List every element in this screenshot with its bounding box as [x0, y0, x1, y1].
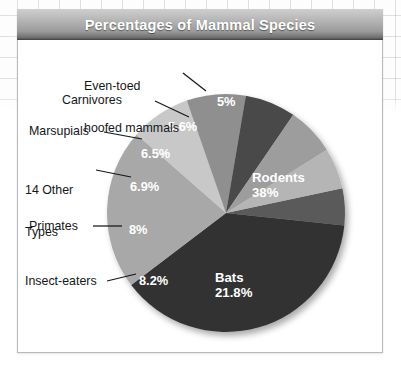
- slice-label-even-toed-pct: 5%: [217, 94, 236, 109]
- slice-label-insect-pct: 8.2%: [139, 273, 169, 288]
- callout-insect-eaters: Insect-eaters: [25, 274, 97, 288]
- callout-even-toed-line2: hoofed mammals: [84, 121, 179, 135]
- slice-label-bats-name: Bats: [215, 270, 244, 285]
- slice-label-primates-pct: 8%: [129, 222, 148, 237]
- callout-even-toed-line1: Even-toed: [84, 79, 179, 93]
- callout-marsupials: Marsupials: [29, 124, 89, 138]
- leader-line-even-toed: [183, 73, 206, 91]
- callout-14-other-line1: 14 Other: [25, 183, 73, 197]
- callout-even-toed-hoofed-mammals: Even-toed hoofed mammals: [84, 51, 179, 163]
- callout-14-other-types: 14 Other Types: [25, 155, 73, 267]
- slice-label-14-other-pct: 6.9%: [130, 179, 160, 194]
- slice-label-rodents-pct: 38%: [252, 185, 279, 200]
- callout-carnivores: Carnivores: [62, 93, 122, 107]
- callout-primates: Primates: [29, 219, 78, 233]
- slice-label-bats-pct: 21.8%: [215, 285, 253, 300]
- pie-chart: 5% 5.6% 6.5% 6.9% 8% 8.2% Rodents 38% Ba…: [0, 0, 401, 372]
- slice-label-rodents-name: Rodents: [252, 170, 305, 185]
